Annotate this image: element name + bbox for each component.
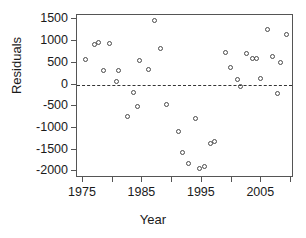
x-axis-tick-label: 1985 (127, 186, 155, 199)
plot-frame (76, 14, 293, 177)
data-point (83, 57, 88, 62)
data-point (152, 18, 157, 23)
x-axis-tick-label: 2005 (246, 186, 274, 199)
data-point (212, 139, 217, 144)
y-axis-tick-label: 1000 (40, 34, 68, 47)
data-point (125, 114, 130, 119)
x-axis-tick (290, 177, 291, 182)
data-point (223, 50, 228, 55)
data-point (202, 164, 207, 169)
data-point (254, 56, 259, 61)
zero-reference-line (77, 85, 292, 86)
y-axis-tick-label: -500 (43, 99, 68, 112)
data-point (186, 161, 191, 166)
data-point (270, 54, 275, 59)
y-axis-tick (71, 62, 76, 63)
x-axis-tick (141, 177, 142, 182)
data-point (235, 77, 240, 82)
y-axis-tick-label: -2000 (36, 164, 68, 177)
data-point (244, 51, 249, 56)
x-axis-tick (201, 177, 202, 182)
data-point (96, 40, 101, 45)
x-axis-title: Year (0, 212, 306, 227)
y-axis-title: Residuals (9, 27, 24, 105)
data-point (284, 32, 289, 37)
y-axis-tick (71, 170, 76, 171)
x-axis-tick (231, 177, 232, 182)
data-point (131, 90, 136, 95)
data-point (180, 150, 185, 155)
y-axis-tick (71, 149, 76, 150)
data-point (275, 91, 280, 96)
data-point (164, 102, 169, 107)
y-axis-tick-label: -1500 (36, 143, 68, 156)
data-point (135, 104, 140, 109)
data-point (107, 41, 112, 46)
x-axis-tick (112, 177, 113, 182)
y-axis-tick (71, 40, 76, 41)
y-axis-tick-label: -1000 (36, 121, 68, 134)
x-axis-tick-label: 1995 (187, 186, 215, 199)
y-axis-tick-label: 0 (61, 78, 68, 91)
plot-area (77, 15, 292, 176)
x-axis-tick (82, 177, 83, 182)
y-axis-tick-label: 500 (47, 56, 68, 69)
data-point (258, 76, 263, 81)
data-point (101, 68, 106, 73)
y-axis-tick (71, 18, 76, 19)
y-axis-tick (71, 84, 76, 85)
y-axis-tick (71, 127, 76, 128)
data-point (137, 58, 142, 63)
data-point (193, 116, 198, 121)
data-point (265, 27, 270, 32)
data-point (238, 84, 243, 89)
y-axis-tick (71, 105, 76, 106)
x-axis-tick-label: 1975 (68, 186, 96, 199)
data-point (197, 166, 202, 171)
data-point (228, 65, 233, 70)
data-point (116, 68, 121, 73)
x-axis-tick (171, 177, 172, 182)
data-point (278, 60, 283, 65)
y-axis-tick-label: 1500 (40, 12, 68, 25)
data-point (158, 46, 163, 51)
data-point (176, 129, 181, 134)
data-point (146, 67, 151, 72)
x-axis-tick (260, 177, 261, 182)
chart-page: Residuals Year 150010005000-500-1000-150… (0, 0, 306, 238)
